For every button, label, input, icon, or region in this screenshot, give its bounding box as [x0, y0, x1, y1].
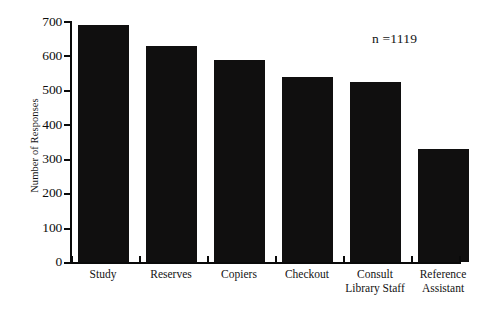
x-tick-mark-3 [275, 256, 277, 263]
bar-reserves [146, 46, 197, 262]
x-category-label-reference-assistant-line1: Reference [420, 268, 467, 280]
x-tick-mark-4 [343, 256, 345, 263]
y-tick-label-200: 200 [28, 186, 62, 200]
x-tick-mark-6 [459, 256, 461, 263]
y-tick-label-600: 600 [28, 49, 62, 63]
x-axis-line [70, 262, 461, 264]
y-tick-label-400: 400 [28, 118, 62, 132]
y-tick-label-700: 700 [28, 15, 62, 29]
x-tick-mark-0 [71, 256, 73, 263]
bar-copiers [214, 60, 265, 262]
x-category-label-reference-assistant: Reference Assistant [403, 267, 483, 295]
bar-checkout [282, 77, 333, 262]
x-category-label-consult-library-staff-line1: Consult [357, 268, 393, 280]
y-tick-label-0: 0 [28, 255, 62, 269]
y-tick-label-100: 100 [28, 221, 62, 235]
x-tick-mark-5 [411, 256, 413, 263]
x-category-label-study-line1: Study [90, 268, 117, 280]
x-category-label-copiers-line1: Copiers [221, 268, 257, 280]
x-category-label-checkout-line1: Checkout [285, 268, 329, 280]
bar-consult-library-staff [350, 82, 401, 262]
x-category-label-reference-assistant-line2: Assistant [403, 281, 483, 295]
bar-reference-assistant [418, 149, 469, 262]
bar-study [78, 25, 129, 262]
x-category-label-reserves-line1: Reserves [150, 268, 192, 280]
sample-size-annotation: n =1119 [372, 31, 417, 47]
x-tick-mark-1 [139, 256, 141, 263]
x-tick-mark-2 [207, 256, 209, 263]
y-axis-line [70, 21, 72, 263]
y-tick-label-500: 500 [28, 83, 62, 97]
y-tick-label-300: 300 [28, 152, 62, 166]
bar-chart: Number of Responses 700 600 500 400 300 … [0, 0, 493, 313]
